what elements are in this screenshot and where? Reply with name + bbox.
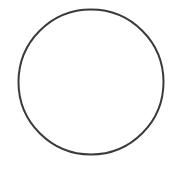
diagram-svg [0, 0, 170, 173]
diagram-canvas [0, 0, 170, 173]
circle-shape [19, 10, 164, 155]
